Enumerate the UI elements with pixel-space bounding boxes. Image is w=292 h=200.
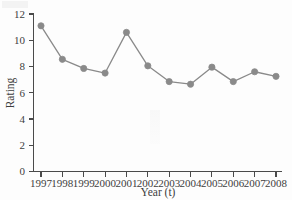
y-axis-ticks [29,14,34,172]
x-axis-title: Year (t) [141,186,176,199]
data-point-2005 [209,64,215,70]
data-point-2004 [187,81,193,87]
x-tick-label-1998: 1998 [51,177,74,189]
y-tick-label-0: 0 [20,165,26,177]
data-point-2006 [230,78,236,84]
y-tick-label-12: 12 [14,8,25,20]
data-point-1998 [59,56,65,62]
y-tick-label-4: 4 [20,113,26,125]
x-tick-label-2007: 2007 [244,177,267,189]
y-axis-title: Rating [4,77,17,108]
data-point-2000 [102,70,108,76]
data-point-2008 [273,73,279,79]
y-tick-label-2: 2 [20,139,26,151]
y-tick-label-10: 10 [14,34,26,46]
x-tick-label-2006: 2006 [222,177,245,189]
x-tick-label-2004: 2004 [180,177,203,189]
x-tick-label-2005: 2005 [201,177,224,189]
rating-series-line [41,26,276,84]
rating-vs-year-line-chart: 024681012 199719981999200020012002200320… [0,0,292,200]
data-point-2001 [123,29,129,35]
chart-figure: 024681012 199719981999200020012002200320… [0,0,292,200]
x-tick-label-1999: 1999 [73,177,96,189]
data-point-1999 [81,65,87,71]
x-tick-label-2008: 2008 [265,177,288,189]
x-tick-label-2000: 2000 [94,177,117,189]
x-axis-ticks [41,172,276,177]
y-tick-label-8: 8 [20,60,26,72]
y-tick-label-6: 6 [20,87,26,99]
data-point-2007 [252,69,258,75]
x-tick-label-2001: 2001 [115,177,137,189]
x-tick-label-1997: 1997 [30,177,53,189]
data-point-1997 [38,23,44,29]
data-point-2003 [166,78,172,84]
data-point-2002 [145,63,151,69]
